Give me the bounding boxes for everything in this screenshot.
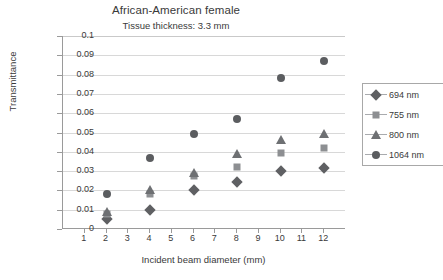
y-tick-label: 0.04	[34, 147, 94, 156]
x-tick-label: 11	[289, 233, 313, 243]
x-tick-label: 6	[181, 233, 205, 243]
x-axis-label: Incident beam diameter (mm)	[62, 254, 345, 265]
data-point	[233, 115, 241, 123]
y-tick-label: 0.03	[34, 166, 94, 175]
x-tick-label: 7	[202, 233, 226, 243]
y-tick-label: 0.02	[34, 185, 94, 194]
y-tick-label: 0.08	[34, 70, 94, 79]
legend-marker-triangle-icon	[363, 125, 389, 145]
x-tick-label: 1	[72, 233, 96, 243]
x-tick-label: 12	[311, 233, 335, 243]
gridline	[63, 171, 345, 172]
x-tick-label: 4	[137, 233, 161, 243]
gridline	[63, 75, 345, 76]
legend-marker	[372, 151, 380, 159]
data-point	[102, 207, 112, 216]
data-point	[144, 204, 155, 215]
data-point	[231, 176, 242, 187]
legend-label: 694 nm	[389, 90, 419, 100]
y-tick-label: 0.1	[34, 31, 94, 40]
gridline	[63, 113, 345, 114]
y-tick-label: 0.05	[34, 128, 94, 137]
data-point	[145, 185, 155, 194]
legend-label: 1064 nm	[389, 150, 424, 160]
plot-area	[62, 36, 345, 229]
legend-marker-circle-icon	[363, 145, 389, 165]
x-tick-label: 2	[94, 233, 118, 243]
y-tick-label: 0.07	[34, 89, 94, 98]
data-point	[190, 130, 198, 138]
y-tick-label: 0	[34, 224, 94, 233]
data-point	[189, 168, 199, 177]
legend-item-694-nm[interactable]: 694 nm	[363, 85, 443, 105]
data-point	[146, 154, 154, 162]
legend-marker	[371, 130, 381, 139]
x-tick-label: 3	[115, 233, 139, 243]
legend-item-800-nm[interactable]: 800 nm	[363, 125, 443, 145]
data-point	[234, 164, 241, 171]
data-point	[319, 129, 329, 138]
y-tick-label: 0.09	[34, 50, 94, 59]
x-tick-label: 5	[159, 233, 183, 243]
gridline	[63, 36, 345, 37]
chart-subtitle: Tissue thickness: 3.3 mm	[0, 20, 352, 31]
data-point	[188, 185, 199, 196]
data-point	[320, 57, 328, 65]
legend-item-1064-nm[interactable]: 1064 nm	[363, 145, 443, 165]
data-point	[103, 190, 111, 198]
data-point	[275, 165, 286, 176]
x-tick-label: 9	[246, 233, 270, 243]
gridline	[63, 94, 345, 95]
y-tick-label: 0.06	[34, 108, 94, 117]
legend-marker-diamond-icon	[363, 85, 389, 105]
data-point	[232, 149, 242, 158]
data-point	[277, 74, 285, 82]
data-point	[277, 149, 284, 156]
legend-marker-square-icon	[363, 105, 389, 125]
legend-item-755-nm[interactable]: 755 nm	[363, 105, 443, 125]
legend-marker	[373, 112, 380, 119]
legend-label: 755 nm	[389, 110, 419, 120]
x-tick-label: 8	[224, 233, 248, 243]
gridline	[63, 152, 345, 153]
data-point	[276, 135, 286, 144]
legend-label: 800 nm	[389, 130, 419, 140]
data-point	[321, 144, 328, 151]
x-tick-label: 10	[268, 233, 292, 243]
transmittance-scatter-chart: African-American female Tissue thickness…	[0, 0, 443, 280]
y-tick-label: 0.01	[34, 205, 94, 214]
chart-legend: 694 nm755 nm800 nm1064 nm	[362, 83, 443, 166]
gridline	[63, 55, 345, 56]
chart-title: African-American female	[0, 4, 352, 16]
data-point	[319, 163, 330, 174]
gridline	[63, 133, 345, 134]
legend-marker	[370, 89, 381, 100]
y-axis-label: Transmittance	[7, 2, 18, 162]
